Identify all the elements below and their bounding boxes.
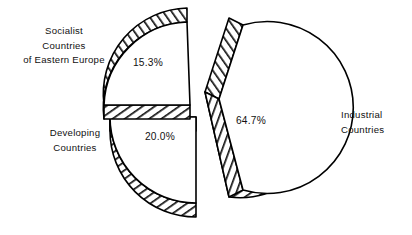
label-industrial-countries: Industrial Countries xyxy=(341,108,411,137)
value-label-developing-countries: 20.0% xyxy=(145,131,175,142)
label-developing-countries: Developing Countries xyxy=(20,126,130,155)
slice-industrial-countries[interactable] xyxy=(205,18,353,198)
value-label-industrial-countries: 64.7% xyxy=(236,115,266,126)
pie-chart-figure: Socialist Countries of Eastern Europe De… xyxy=(0,0,412,235)
value-label-socialist-countries: 15.3% xyxy=(133,57,163,68)
socialist-lower-wall xyxy=(104,105,190,119)
industrial-top-face xyxy=(219,22,353,194)
label-socialist-countries: Socialist Countries of Eastern Europe xyxy=(0,24,128,68)
